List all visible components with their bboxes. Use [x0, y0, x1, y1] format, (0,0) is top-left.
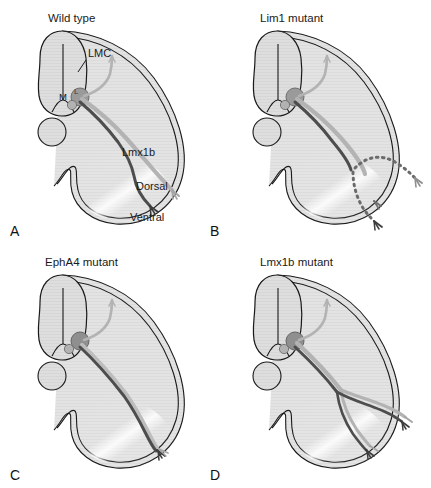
panel-c-letter: C [10, 467, 20, 483]
annotation-lmc-a: LMC [88, 47, 111, 59]
annotation-medial-a: M [59, 91, 67, 102]
annotation-ventral-a: Ventral [130, 211, 164, 223]
notochord-a [38, 118, 66, 146]
panel-a-letter: A [10, 223, 20, 239]
annotation-lateral-a: L [74, 87, 79, 96]
notochord-d [253, 362, 281, 390]
notochord-c [38, 362, 66, 390]
annotation-dorsal-a: Dorsal [136, 180, 168, 192]
panel-d-letter: D [210, 467, 220, 483]
panel-d-title: Lmx1b mutant [260, 256, 334, 268]
annotation-lmx1b-a: Lmx1b [122, 146, 155, 158]
panel-a-title: Wild type [48, 12, 95, 24]
panel-c-title: EphA4 mutant [45, 256, 119, 268]
limb-innervation-figure: Wild type [0, 0, 431, 488]
panel-b-title: Lim1 mutant [260, 12, 324, 24]
notochord-b [253, 118, 281, 146]
panel-b-letter: B [210, 223, 219, 239]
